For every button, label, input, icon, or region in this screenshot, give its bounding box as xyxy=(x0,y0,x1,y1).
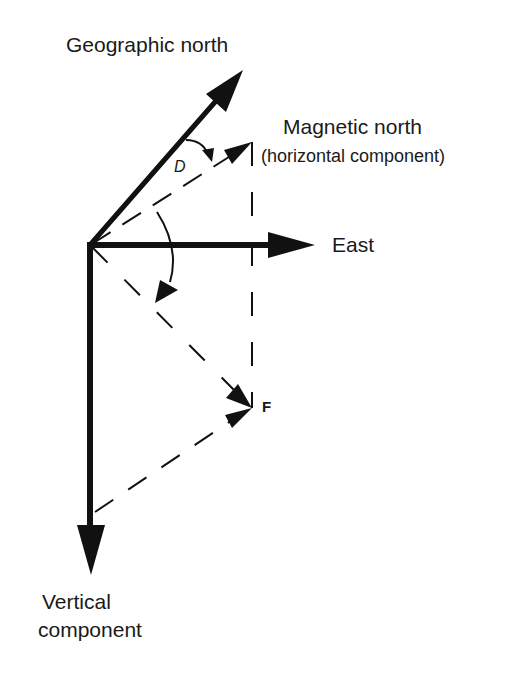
inclination-arc-arrow xyxy=(155,212,178,303)
declination-arc-arrow xyxy=(186,140,214,162)
vertical-component-label-line1: Vertical xyxy=(38,590,142,614)
vertical-projection-line xyxy=(95,408,252,512)
east-label: East xyxy=(332,233,374,257)
vertical-component-label: Vertical component xyxy=(38,590,142,642)
geomagnetic-vector-diagram xyxy=(0,0,510,686)
field-vector-label: F xyxy=(262,398,271,415)
declination-label: D xyxy=(174,158,186,176)
magnetic-north-label: Magnetic north xyxy=(283,115,422,139)
geographic-north-arrow xyxy=(90,70,243,245)
east-arrow xyxy=(88,232,315,258)
vertical-component-arrow xyxy=(77,242,105,575)
magnetic-north-horizontal-arrow xyxy=(92,142,252,244)
horizontal-component-label: (horizontal component) xyxy=(261,146,445,167)
geographic-north-label: Geographic north xyxy=(66,33,228,57)
vertical-component-label-line2: component xyxy=(38,618,142,642)
